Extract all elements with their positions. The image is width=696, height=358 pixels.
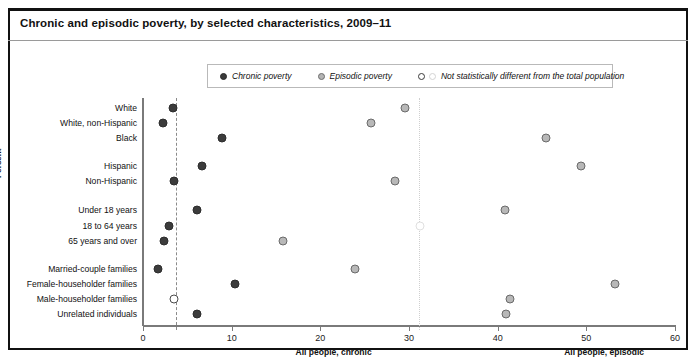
frame-right-rule [686,8,688,350]
data-point-chronic-11 [193,310,202,319]
x-tick-label-20: 20 [315,333,325,343]
category-label-column: WhiteWhite, non-HispanicBlackHispanicNon… [0,0,137,358]
data-point-episodic-11 [501,310,510,319]
data-point-chronic-9 [231,280,240,289]
category-label-0: White [115,103,137,113]
data-point-episodic-5 [500,206,509,215]
x-tick-50 [586,325,587,331]
category-label-7: 65 years and over [68,236,137,246]
x-tick-10 [232,325,233,331]
filled-gray-circle-icon [318,73,325,80]
category-label-5: Under 18 years [78,205,137,215]
x-tick-label-60: 60 [670,333,680,343]
x-tick-40 [498,325,499,331]
chart-legend: Chronic poverty Episodic poverty Not sta… [207,64,613,88]
data-point-episodic-6 [415,222,424,231]
open-circle-light-icon [429,73,436,80]
axis-note-episodic: All people, episodic [564,347,644,357]
legend-label-not-significant: Not statistically different from the tot… [441,71,624,81]
data-point-episodic-7 [279,237,288,246]
data-point-chronic-5 [193,206,202,215]
category-label-3: Hispanic [104,161,137,171]
data-point-episodic-1 [366,119,375,128]
x-tick-label-0: 0 [140,333,145,343]
axis-note-chronic: All people, chronic [296,347,372,357]
x-tick-label-40: 40 [493,333,503,343]
filled-dark-circle-icon [220,73,227,80]
reference-line-episodic [419,98,420,330]
data-point-episodic-8 [350,265,359,274]
y-axis-line [142,98,144,326]
category-label-10: Male-householder families [37,294,137,304]
data-point-episodic-4 [390,177,399,186]
x-tick-label-30: 30 [404,333,414,343]
legend-item-chronic: Chronic poverty [220,71,292,81]
data-point-chronic-1 [159,119,168,128]
x-tick-20 [320,325,321,331]
data-point-episodic-10 [506,295,515,304]
x-tick-60 [675,325,676,331]
category-label-1: White, non-Hispanic [60,118,137,128]
legend-item-not-significant: Not statistically different from the tot… [418,71,624,81]
data-point-episodic-9 [610,280,619,289]
chart-figure: Chronic and episodic poverty, by selecte… [0,0,696,358]
category-label-4: Non-Hispanic [85,176,137,186]
legend-item-episodic: Episodic poverty [318,71,392,81]
category-label-8: Married-couple families [48,264,137,274]
data-point-chronic-4 [170,177,179,186]
data-point-chronic-2 [217,134,226,143]
data-point-episodic-3 [577,162,586,171]
category-label-6: 18 to 64 years [83,221,137,231]
category-label-11: Unrelated individuals [57,309,137,319]
category-label-9: Female-householder families [27,279,137,289]
x-tick-label-10: 10 [227,333,237,343]
category-label-2: Black [116,133,137,143]
open-circle-icon [418,73,425,80]
data-point-episodic-0 [401,104,410,113]
x-tick-0 [143,325,144,331]
legend-label-chronic: Chronic poverty [232,71,292,81]
data-point-chronic-6 [164,222,173,231]
x-tick-label-50: 50 [581,333,591,343]
data-point-episodic-2 [541,134,550,143]
data-point-chronic-0 [169,104,178,113]
data-point-chronic-7 [160,237,169,246]
data-point-chronic-10 [170,295,179,304]
data-point-chronic-8 [154,265,163,274]
data-point-chronic-3 [197,162,206,171]
legend-label-episodic: Episodic poverty [330,71,392,81]
x-tick-30 [409,325,410,331]
